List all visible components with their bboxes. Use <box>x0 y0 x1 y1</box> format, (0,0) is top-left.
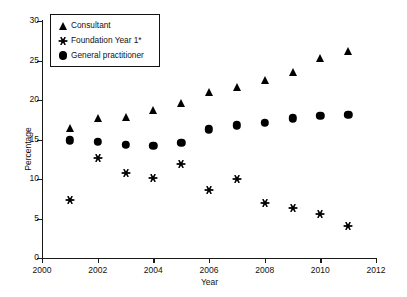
legend-label: General practitioner <box>71 50 144 61</box>
legend-marker <box>55 50 71 62</box>
x-tick-label: 2010 <box>311 265 330 276</box>
y-tick-label: 25 <box>30 55 39 66</box>
data-point <box>93 138 101 146</box>
x-tick-mark <box>98 258 99 263</box>
data-point <box>288 203 298 213</box>
data-point <box>288 114 296 122</box>
data-point <box>233 83 241 91</box>
data-point <box>66 136 74 144</box>
data-point <box>122 113 130 121</box>
data-point <box>260 198 270 208</box>
data-point <box>344 111 352 119</box>
x-axis-title: Year <box>42 277 377 287</box>
data-point <box>149 142 157 150</box>
chart-legend: ConsultantFoundation Year 1*General prac… <box>50 14 160 67</box>
data-point <box>261 76 269 84</box>
data-point <box>149 106 157 114</box>
scatter-chart-figure: Percentage Year 051015202530 20002002200… <box>0 0 407 297</box>
data-point <box>343 221 353 231</box>
data-point <box>148 173 158 183</box>
data-point <box>232 174 242 184</box>
data-point <box>344 47 352 55</box>
x-tick-label: 2000 <box>33 265 52 276</box>
legend-item: General practitioner <box>55 48 155 63</box>
data-point <box>94 114 102 122</box>
x-tick-label: 2008 <box>255 265 274 276</box>
x-tick-label: 2012 <box>367 265 386 276</box>
data-point <box>65 195 75 205</box>
data-point <box>205 125 213 133</box>
legend-marker <box>55 20 71 32</box>
y-tick-label: 30 <box>30 15 39 26</box>
x-tick-mark <box>265 258 266 263</box>
x-tick-mark <box>42 258 43 263</box>
star-icon <box>58 36 68 46</box>
data-point <box>316 54 324 62</box>
legend-marker <box>55 35 71 47</box>
data-point <box>177 138 185 146</box>
x-tick-mark <box>153 258 154 263</box>
y-tick-label: 20 <box>30 94 39 105</box>
data-point <box>177 99 185 107</box>
data-point <box>93 153 103 163</box>
legend-label: Consultant <box>71 20 111 31</box>
data-point <box>66 124 74 132</box>
data-point <box>121 168 131 178</box>
data-point <box>233 121 241 129</box>
x-tick-label: 2006 <box>200 265 219 276</box>
y-tick-label: 10 <box>30 173 39 184</box>
x-tick-label: 2004 <box>144 265 163 276</box>
data-point <box>204 185 214 195</box>
data-point <box>121 141 129 149</box>
y-tick-label: 5 <box>34 213 39 224</box>
x-tick-label: 2002 <box>88 265 107 276</box>
data-point <box>176 159 186 169</box>
data-point <box>205 88 213 96</box>
x-tick-mark <box>209 258 210 263</box>
circle-icon <box>59 51 67 59</box>
data-point <box>316 112 324 120</box>
legend-label: Foundation Year 1* <box>71 35 142 46</box>
legend-item: Consultant <box>55 18 155 33</box>
triangle-icon <box>59 22 67 30</box>
data-point <box>260 119 268 127</box>
x-tick-mark <box>320 258 321 263</box>
y-tick-label: 15 <box>30 134 39 145</box>
y-tick-label: 0 <box>34 252 39 263</box>
x-tick-mark <box>376 258 377 263</box>
legend-item: Foundation Year 1* <box>55 33 155 48</box>
data-point <box>315 209 325 219</box>
data-point <box>289 68 297 76</box>
